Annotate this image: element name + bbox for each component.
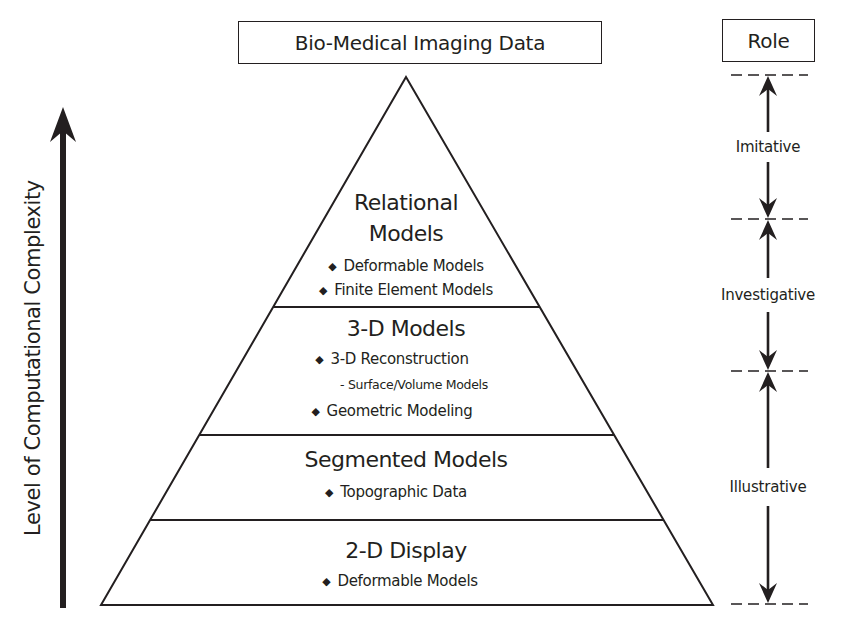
axis-label-text: Level of Computational Complexity — [21, 180, 45, 536]
tier-title: Segmented Models — [206, 447, 606, 473]
list-item: ◆Finite Element Models — [206, 280, 606, 302]
item-text: Deformable Models — [343, 257, 483, 275]
list-item: ◆Deformable Models — [200, 571, 600, 593]
item-text: 3-D Reconstruction — [331, 350, 469, 368]
bullet-icon: ◆ — [328, 260, 336, 273]
bullet-icon: ◆ — [319, 284, 327, 297]
role-imitative: Imitative — [708, 137, 828, 157]
list-item: ◆Deformable Models — [206, 256, 606, 278]
role-header-box: Role — [722, 19, 815, 62]
list-item: ◆Geometric Modeling — [192, 401, 592, 423]
list-item: ◆3-D Reconstruction — [192, 349, 592, 371]
bullet-icon: ◆ — [315, 353, 323, 366]
tier-title: 2-D Display — [206, 538, 606, 564]
item-text: Topographic Data — [340, 483, 467, 501]
item-text: Finite Element Models — [334, 281, 493, 299]
item-text: Deformable Models — [337, 572, 477, 590]
complexity-arrow-icon — [50, 107, 76, 608]
bullet-icon: ◆ — [311, 405, 319, 418]
role-investigative: Investigative — [708, 285, 828, 305]
item-text: Geometric Modeling — [327, 402, 473, 420]
role-header-text: Role — [748, 29, 790, 53]
bullet-icon: ◆ — [325, 486, 333, 499]
tier-title: 3-D Models — [206, 316, 606, 342]
title-text: Bio-Medical Imaging Data — [295, 31, 545, 55]
sub-item: - Surface/Volume Models — [214, 375, 614, 395]
tier-title: Relational — [206, 190, 606, 216]
list-item: ◆Topographic Data — [196, 482, 596, 504]
role-illustrative: Illustrative — [708, 477, 828, 497]
title-box: Bio-Medical Imaging Data — [238, 21, 602, 64]
tier-title: Models — [206, 221, 606, 247]
bullet-icon: ◆ — [322, 575, 330, 588]
